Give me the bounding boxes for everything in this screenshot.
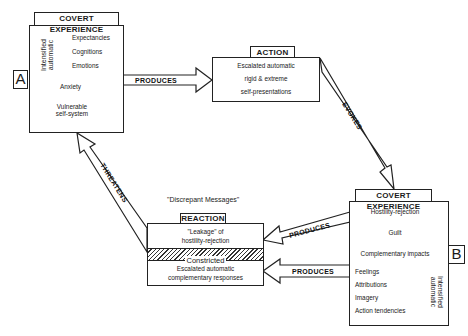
reaction-tab: REACTION [180, 213, 226, 224]
reaction-leakage: "Leakage" of hostility-rejection [148, 227, 263, 245]
produces-label-3: PRODUCES [292, 268, 334, 275]
node-b-item-attributions: Attributions [355, 281, 387, 288]
discrepant-messages-caption: "Discrepant Messages" [167, 196, 239, 203]
node-a-item-cognitions: Cognitions [72, 48, 102, 55]
produces-label-1: PRODUCES [135, 77, 177, 84]
evokes-arrow: EVOKES [320, 58, 394, 189]
label-b: B [448, 245, 465, 264]
node-b-item-feelings: Feelings [355, 268, 379, 275]
action-line-1: Escalated automatic [213, 62, 319, 69]
node-b-guilt: Guilt [380, 229, 410, 236]
action-tab: ACTION [250, 46, 295, 58]
covert-experience-a-tab: COVERT EXPERIENCE [34, 12, 119, 26]
node-a-vulnerable-self: Vulnerable self-system [48, 103, 96, 117]
action-box: Escalated automatic rigid & extreme self… [212, 57, 320, 102]
node-a-item-expectancies: Expectancies [72, 34, 110, 41]
node-b-hostility-rejection: Hostility-rejection [360, 208, 430, 215]
label-a: A [13, 70, 28, 89]
evokes-label: EVOKES [341, 101, 363, 131]
reaction-box: "Leakage" of hostility-rejection Constri… [147, 223, 264, 286]
node-a-item-emotions: Emotions [72, 62, 99, 69]
node-b-item-action-tendencies: Action tendencies [355, 307, 405, 314]
node-a-anxiety: Anxiety [60, 83, 81, 90]
constricted-band: Constricted [148, 248, 263, 261]
node-a-vertical-label: Intensified automatic [40, 35, 60, 75]
covert-experience-b-tab: COVERT EXPERIENCE [355, 189, 432, 202]
node-b-item-imagery: Imagery [355, 294, 378, 301]
produces-arrow-a-to-action: PRODUCES [123, 68, 212, 92]
produces-arrow-b-to-reaction-upper: PRODUCES [263, 212, 350, 244]
threatens-arrow: THREATENS [77, 133, 147, 252]
produces-arrow-b-to-reaction-lower: PRODUCES [263, 259, 350, 283]
reaction-escalated: Escalated automatic complementary respon… [148, 264, 263, 282]
action-line-3: self-presentations [213, 88, 319, 95]
node-b-vertical-label: Intensified automatic [428, 269, 444, 315]
action-line-2: rigid & extreme [213, 75, 319, 82]
node-b-complementary-impacts: Complementary impacts [355, 250, 435, 257]
